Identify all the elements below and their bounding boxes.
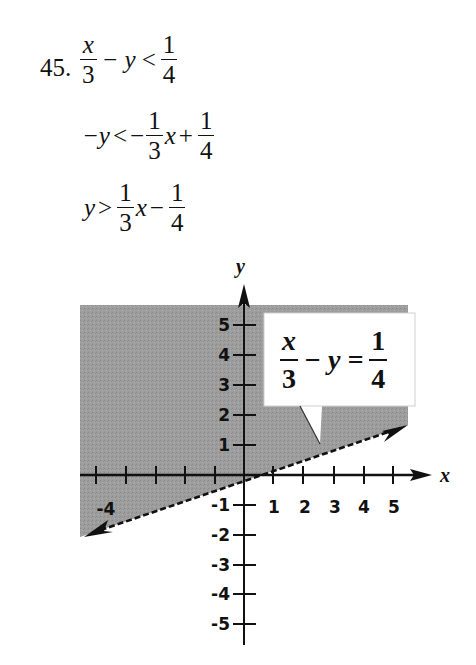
svg-text:-1: -1 bbox=[211, 495, 230, 515]
svg-text:4: 4 bbox=[218, 345, 230, 365]
svg-text:4: 4 bbox=[358, 497, 370, 517]
svg-text:5: 5 bbox=[388, 497, 400, 517]
svg-text:1: 1 bbox=[268, 497, 280, 517]
svg-text:-4: -4 bbox=[97, 499, 116, 519]
svg-text:-4: -4 bbox=[211, 584, 230, 604]
svg-text:-5: -5 bbox=[211, 614, 230, 634]
callout-equation: x 3 − y = 1 4 bbox=[278, 325, 389, 395]
svg-text:1: 1 bbox=[218, 435, 230, 455]
x-axis-label: x bbox=[439, 464, 450, 486]
svg-text:2: 2 bbox=[218, 405, 230, 425]
svg-text:2: 2 bbox=[299, 497, 311, 517]
svg-text:3: 3 bbox=[218, 375, 230, 395]
inequality-graph: x -4 1 2 3 4 5 y 5 4 3 2 1 -1 -2 -3 bbox=[0, 0, 476, 665]
svg-text:-3: -3 bbox=[211, 555, 230, 575]
svg-text:5: 5 bbox=[218, 315, 230, 335]
svg-text:-2: -2 bbox=[211, 525, 230, 545]
y-axis-label: y bbox=[234, 255, 245, 278]
svg-text:3: 3 bbox=[329, 497, 341, 517]
